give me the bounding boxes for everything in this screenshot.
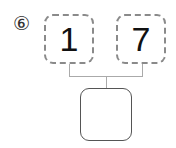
- number-box-2: 7: [116, 14, 166, 64]
- connector-down: [106, 76, 107, 88]
- connector-right: [142, 64, 143, 76]
- problem-number: ⑥: [13, 12, 30, 34]
- connector-left: [69, 64, 70, 76]
- answer-box[interactable]: [80, 88, 132, 141]
- number-box-1: 1: [44, 14, 94, 64]
